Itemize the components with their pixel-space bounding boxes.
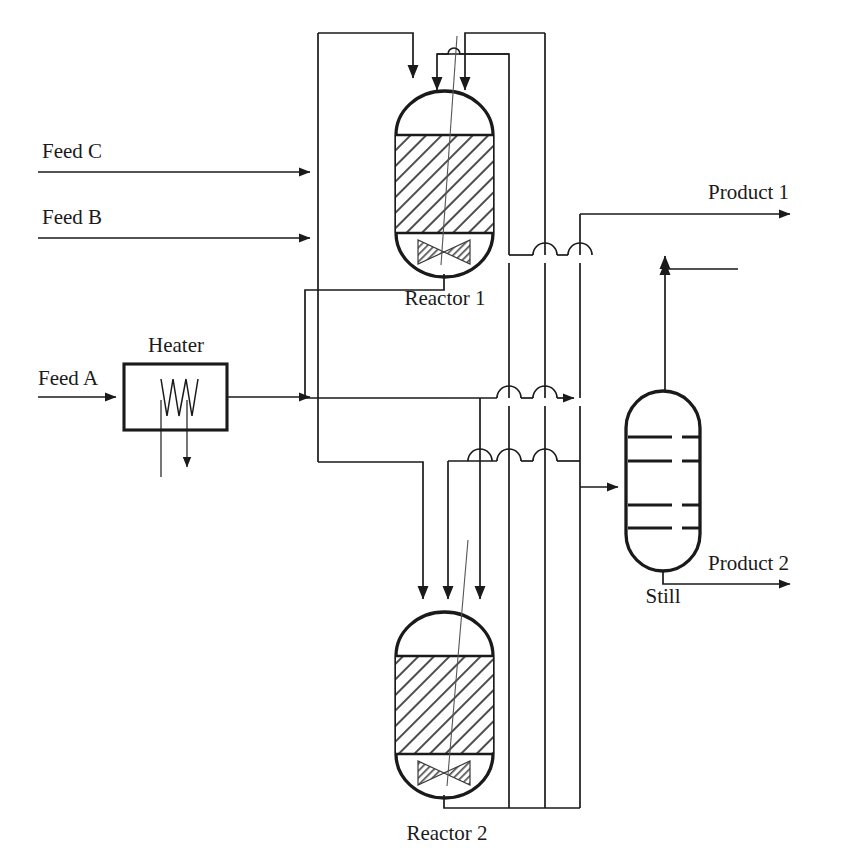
reactor-1-to-header [305,298,444,398]
feed-c-label: Feed C [42,139,102,163]
product-1-label: Product 1 [708,180,789,204]
still-unit [626,391,700,571]
pfd-canvas: Feed C Feed B Feed A Heater Reactor 1 Re… [0,0,858,863]
reactor-1-label: Reactor 1 [404,286,485,310]
reactor-2-valve [418,761,470,785]
feed-b-label: Feed B [42,205,102,229]
reactor-2-unit [396,540,493,798]
still-overhead-header [509,243,738,269]
reactor-1-valve [418,240,470,264]
feed-a-label: Feed A [38,366,99,390]
still-label: Still [645,584,680,608]
still-trays [628,437,699,528]
heater-unit [124,364,227,477]
feed-manifold [318,33,423,599]
reactor-1-inlet-3 [465,33,545,90]
process-flow-diagram: Feed C Feed B Feed A Heater Reactor 1 Re… [0,0,858,863]
lower-feed-header [448,449,580,599]
reactor-1-unit [396,36,493,277]
heater-label: Heater [148,333,204,357]
reactor-2-label: Reactor 2 [406,821,487,845]
product-2-label: Product 2 [708,551,789,575]
